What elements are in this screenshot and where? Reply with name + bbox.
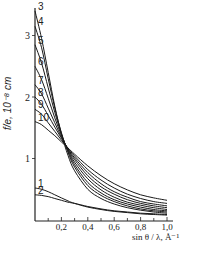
curve-label-10: 10 [38,112,50,123]
x-tick-label: 0,8 [135,222,147,232]
curve-label-2: 2 [38,185,44,196]
y-tick-label: 1 [25,153,30,164]
curve-label-8: 8 [38,87,44,98]
x-tick-label: 0,2 [56,222,67,232]
x-tick-label: 0,6 [109,222,121,232]
x-axis-label: sin θ / λ, Å⁻¹ [132,232,179,242]
curves [35,11,167,215]
y-tick-label: 3 [25,30,30,41]
curve-10 [35,122,167,201]
x-tick-label: 1,0 [161,222,173,232]
curve-6 [35,66,167,209]
curve-label-5: 5 [38,35,44,46]
y-axis-label: f/e, 10⁻⁸ cm [2,77,13,130]
scattering-factor-chart: 0,20,40,60,81,0123 12345678910 [0,0,204,262]
x-tick-label: 0,4 [82,222,94,232]
curve-label-4: 4 [38,16,44,27]
curve-label-7: 7 [38,75,44,86]
curve-7 [35,85,167,208]
curve-label-3: 3 [38,1,44,12]
curve-label-6: 6 [38,56,44,67]
y-tick-label: 2 [25,92,30,103]
curve-label-9: 9 [38,99,44,110]
